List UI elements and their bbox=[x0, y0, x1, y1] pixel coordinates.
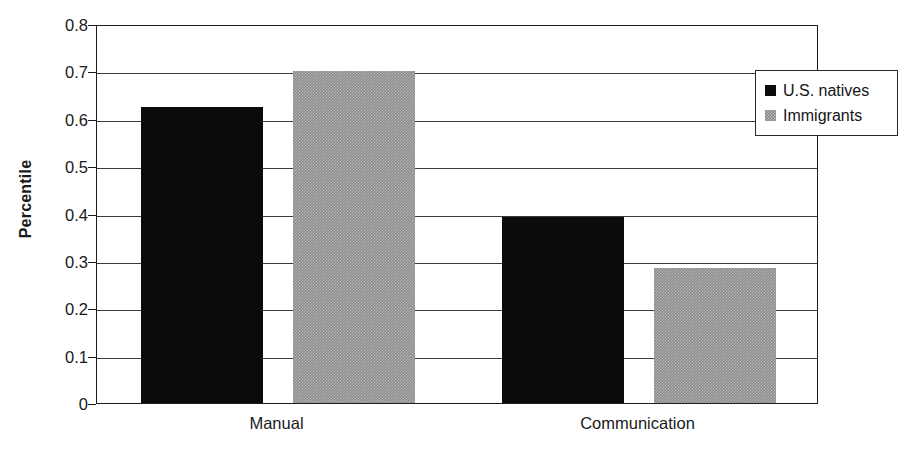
legend-label: Immigrants bbox=[783, 108, 862, 124]
legend-swatch-icon bbox=[765, 110, 776, 121]
y-axis-tick-mark bbox=[88, 262, 96, 263]
y-axis-tick-label: 0.3 bbox=[18, 254, 88, 271]
y-axis-tick-mark bbox=[88, 120, 96, 121]
y-axis-tick-label: 0.1 bbox=[18, 349, 88, 366]
plot-area: U.S. nativesImmigrants bbox=[96, 25, 818, 404]
legend-item: U.S. natives bbox=[765, 78, 897, 103]
y-axis-tick-mark bbox=[88, 357, 96, 358]
y-axis-tick-mark bbox=[88, 215, 96, 216]
y-axis-tick-mark bbox=[88, 309, 96, 310]
y-axis-tick-mark bbox=[88, 404, 96, 405]
x-axis-category-label: Communication bbox=[488, 414, 788, 433]
y-axis-tick-mark bbox=[88, 25, 96, 26]
chart-legend: U.S. nativesImmigrants bbox=[755, 70, 898, 136]
y-axis-tick-label: 0.4 bbox=[18, 207, 88, 224]
y-axis-tick-labels: 0.80.70.60.50.40.30.20.10 bbox=[14, 0, 88, 457]
bar-communication-immigrants bbox=[654, 268, 776, 403]
y-axis-tick-label: 0.7 bbox=[18, 64, 88, 81]
y-axis-tick-label: 0.5 bbox=[18, 159, 88, 176]
y-axis-tick-label: 0 bbox=[18, 396, 88, 413]
y-axis-tick-label: 0.8 bbox=[18, 17, 88, 34]
y-axis-tick-mark bbox=[88, 167, 96, 168]
legend-swatch-icon bbox=[765, 85, 776, 96]
gridline bbox=[97, 73, 817, 74]
bar-manual-u-s-natives bbox=[141, 107, 263, 403]
y-axis-tick-label: 0.6 bbox=[18, 112, 88, 129]
y-axis-tick-label: 0.2 bbox=[18, 301, 88, 318]
legend-item: Immigrants bbox=[765, 103, 897, 128]
legend-label: U.S. natives bbox=[783, 83, 869, 99]
x-axis-category-label: Manual bbox=[127, 414, 427, 433]
bar-communication-u-s-natives bbox=[502, 217, 624, 403]
bar-manual-immigrants bbox=[293, 71, 415, 403]
y-axis-tick-mark bbox=[88, 72, 96, 73]
